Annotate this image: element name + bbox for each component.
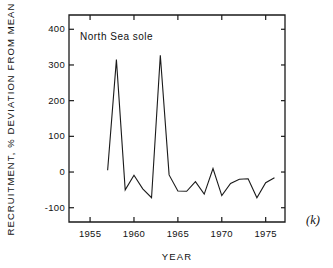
y-axis-tick-label: 0 xyxy=(59,166,65,177)
x-axis-tick-label: 1975 xyxy=(255,228,277,239)
y-axis-tick-label: 400 xyxy=(48,23,65,34)
x-axis-tick-label: 1965 xyxy=(167,228,189,239)
data-series-line xyxy=(108,55,275,197)
y-axis-tick-label: 300 xyxy=(48,59,65,70)
x-axis-tick-label: 1960 xyxy=(123,228,145,239)
y-axis-ticks xyxy=(69,29,285,207)
panel-letter-label: (k) xyxy=(306,213,320,227)
series-annotation: North Sea sole xyxy=(80,31,153,42)
x-axis-tick-label: 1955 xyxy=(79,228,101,239)
y-axis-tick-label: -100 xyxy=(45,202,65,213)
y-axis-tick-label: 100 xyxy=(48,130,65,141)
x-axis-tick-labels: 19551960196519701975 xyxy=(79,228,277,239)
chart-svg: -1000100200300400 19551960196519701975 N… xyxy=(0,0,333,268)
x-axis-title: YEAR xyxy=(162,251,192,262)
figure-panel: -1000100200300400 19551960196519701975 N… xyxy=(0,0,333,268)
plot-frame xyxy=(69,15,285,222)
y-axis-title: RECRUITMENT, % DEVIATION FROM MEAN xyxy=(5,2,16,235)
x-axis-tick-label: 1970 xyxy=(211,228,233,239)
y-axis-tick-label: 200 xyxy=(48,95,65,106)
y-axis-tick-labels: -1000100200300400 xyxy=(45,23,65,212)
